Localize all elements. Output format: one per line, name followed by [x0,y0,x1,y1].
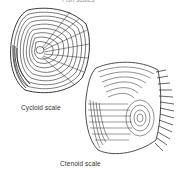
cycloid-scale-label: Cycloid scale [21,104,61,111]
cycloid-scale-drawing [11,8,90,92]
ctenoid-scale-label: Ctenoid scale [60,160,101,167]
fish-scales-illustration [0,0,181,175]
ctenoid-scale-drawing [86,62,175,153]
